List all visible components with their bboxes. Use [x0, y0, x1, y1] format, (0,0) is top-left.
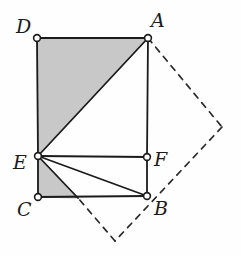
edge-D-E [37, 38, 38, 156]
vertex-label-A: A [151, 11, 165, 30]
edge-F-A [147, 38, 148, 157]
edge-E-F [38, 156, 147, 157]
dashed-edge-Pbottom-G [78, 198, 115, 241]
vertex-marker-B [144, 193, 151, 200]
vertex-marker-A [145, 35, 152, 42]
vertex-marker-D [34, 35, 41, 42]
vertex-marker-C [35, 194, 42, 201]
vertex-marker-E [35, 153, 42, 160]
vertex-label-C: C [17, 200, 32, 219]
dashed-edge-A-Pright [148, 38, 222, 127]
vertex-label-E: E [13, 153, 27, 172]
shaded-regions-group [37, 38, 148, 198]
dashed-edge-Pright-Pbottom [115, 127, 222, 241]
geometry-figure: D A E F C B [0, 0, 241, 256]
vertex-marker-F [144, 154, 151, 161]
vertex-label-B: B [154, 199, 168, 218]
vertex-label-D: D [16, 17, 31, 36]
figure-canvas [0, 0, 241, 256]
vertex-label-F: F [154, 150, 167, 169]
edge-C-B [38, 196, 147, 197]
